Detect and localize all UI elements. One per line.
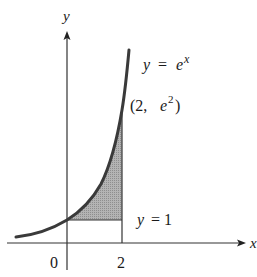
svg-text:y: y — [141, 56, 151, 74]
svg-text:=: = — [158, 56, 167, 73]
svg-text:x: x — [183, 52, 190, 66]
x-axis-label: x — [249, 235, 257, 251]
svg-text:= 1: = 1 — [151, 211, 172, 228]
svg-text:e: e — [160, 97, 167, 114]
tick-label-0: 0 — [50, 254, 58, 271]
point-label: (2, e 2 ) — [130, 93, 180, 115]
svg-text:y: y — [135, 211, 145, 229]
y-axis-label: y — [61, 8, 70, 24]
svg-text:e: e — [176, 56, 183, 73]
shaded-region — [67, 110, 122, 220]
diagram-canvas: y x 0 2 y = e x (2, e 2 ) y = 1 — [0, 0, 257, 277]
svg-text:(2,: (2, — [130, 97, 147, 115]
curve-label: y = e x — [141, 52, 190, 74]
svg-text:2: 2 — [168, 93, 174, 105]
tick-label-2: 2 — [117, 254, 125, 271]
svg-text:): ) — [175, 97, 180, 115]
line-label: y = 1 — [135, 211, 172, 229]
